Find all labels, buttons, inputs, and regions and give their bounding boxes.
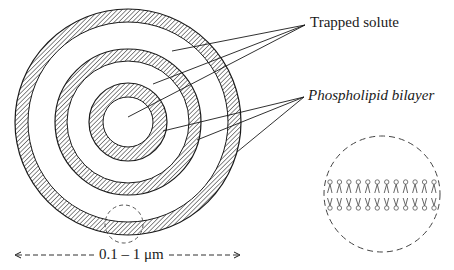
middle-bilayer <box>55 49 201 195</box>
lipid-head-icon <box>413 206 417 210</box>
label-phospholipid-bilayer: Phospholipid bilayer <box>308 87 434 104</box>
lipid-head-icon <box>413 180 417 184</box>
lipid-tail-icon <box>375 198 380 206</box>
bilayer-rings <box>15 9 241 235</box>
lipid-head-icon <box>375 180 379 184</box>
lipid-head-icon <box>366 206 370 210</box>
lipid-head-icon <box>356 206 360 210</box>
lipid-head-icon <box>328 206 332 210</box>
lipid-tail-icon <box>346 198 351 206</box>
lipid-tail-icon <box>403 198 408 206</box>
lipid-head-icon <box>422 180 426 184</box>
lipid-tail-icon <box>337 184 342 193</box>
middle-bilayer-inner-edge <box>67 61 189 183</box>
inner-bilayer-inner-edge <box>103 97 153 147</box>
lipid-tail-icon <box>365 184 370 193</box>
lipid-head-icon <box>385 180 389 184</box>
lipid-tail-icon <box>346 184 351 193</box>
lipid-head-icon <box>403 206 407 210</box>
lipid-tail-icon <box>328 184 333 193</box>
lipid-head-icon <box>328 180 332 184</box>
lipid-tail-icon <box>422 184 427 193</box>
lipid-tail-icon <box>432 198 437 206</box>
lipid-head-icon <box>366 180 370 184</box>
label-trapped-solute: Trapped solute <box>310 14 399 31</box>
lipid-tail-icon <box>384 184 389 193</box>
lipid-head-icon <box>347 206 351 210</box>
lipid-head-icon <box>422 206 426 210</box>
lipid-tail-icon <box>394 198 399 206</box>
lipid-head-icon <box>356 180 360 184</box>
magnifier-zoom-circle <box>324 136 440 252</box>
lipid-head-icon <box>337 206 341 210</box>
label-scale: 0.1 – 1 μm <box>96 246 167 263</box>
lipid-head-icon <box>347 180 351 184</box>
lipid-head-icon <box>337 180 341 184</box>
lipid-head-icon <box>375 206 379 210</box>
lipid-head-icon <box>385 206 389 210</box>
lipid-tail-icon <box>365 198 370 206</box>
diagram-canvas <box>0 0 454 270</box>
lipid-head-icon <box>394 180 398 184</box>
lipid-head-icon <box>403 180 407 184</box>
lipid-tail-icon <box>356 198 361 206</box>
lipid-tail-icon <box>403 184 408 193</box>
lipid-tail-icon <box>328 198 333 206</box>
outer-bilayer <box>15 9 241 235</box>
lipid-tail-icon <box>356 184 361 193</box>
lipid-head-icon <box>394 206 398 210</box>
liposome-diagram: Trapped solute Phospholipid bilayer 0.1 … <box>0 0 454 270</box>
lipid-tail-icon <box>422 198 427 206</box>
lipid-tail-icon <box>413 184 418 193</box>
lipid-tail-icon <box>375 184 380 193</box>
lipid-tail-icon <box>337 198 342 206</box>
magnifier <box>105 136 440 252</box>
lipid-tail-icon <box>394 184 399 193</box>
lipid-head-icon <box>432 206 436 210</box>
lipid-head-icon <box>432 180 436 184</box>
lipid-tail-icon <box>384 198 389 206</box>
lipid-tail-icon <box>413 198 418 206</box>
lipid-tail-icon <box>432 184 437 193</box>
